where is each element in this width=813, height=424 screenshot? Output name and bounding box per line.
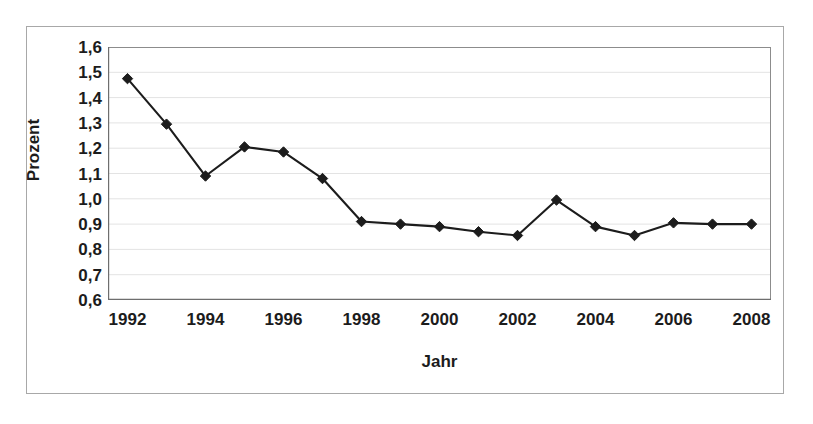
data-point-marker (668, 218, 678, 228)
x-tick-label: 1992 (109, 311, 147, 328)
x-tick-label: 2006 (655, 311, 693, 328)
series-line-prozent (128, 79, 752, 236)
y-tick-label: 0,7 (78, 267, 102, 284)
y-tick-label: 0,6 (78, 292, 102, 309)
x-tick-label: 2002 (499, 311, 537, 328)
data-point-marker (473, 226, 483, 236)
data-point-marker (629, 230, 639, 240)
x-tick-label: 1994 (187, 311, 225, 328)
y-tick-label: 0,9 (78, 216, 102, 233)
y-tick-label: 1,4 (78, 90, 102, 107)
y-tick-label: 1,5 (78, 64, 102, 81)
gridlines (108, 47, 771, 275)
x-tick-label: 2000 (421, 311, 459, 328)
y-tick-label: 1,0 (78, 191, 102, 208)
y-tick-label: 0,8 (78, 241, 102, 258)
x-axis-title: Jahr (108, 352, 771, 372)
data-point-marker (707, 219, 717, 229)
line-chart-svg (108, 47, 771, 300)
x-axis-tick-labels: 199219941996199820002002200420062008 (0, 311, 813, 339)
data-point-marker (395, 219, 405, 229)
y-axis-tick-labels: 1,61,51,41,31,21,11,00,90,80,70,6 (56, 0, 102, 424)
chart-figure: 1,61,51,41,31,21,11,00,90,80,70,6 199219… (0, 0, 813, 424)
y-tick-label: 1,2 (78, 140, 102, 157)
series-markers-prozent (122, 73, 756, 240)
y-tick-label: 1,3 (78, 115, 102, 132)
y-tick-label: 1,6 (78, 39, 102, 56)
data-point-marker (746, 219, 756, 229)
x-tick-label: 2004 (577, 311, 615, 328)
x-tick-label: 1996 (265, 311, 303, 328)
data-point-marker (434, 221, 444, 231)
plot-area (108, 47, 771, 300)
x-tick-label: 1998 (343, 311, 381, 328)
y-axis-title: Prozent (24, 100, 44, 200)
x-tick-label: 2008 (733, 311, 771, 328)
y-tick-label: 1,1 (78, 166, 102, 183)
